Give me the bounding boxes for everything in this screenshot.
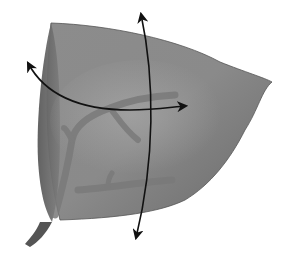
diagram-canvas (0, 0, 289, 267)
surface-highlight (50, 60, 230, 180)
stem (25, 222, 52, 247)
lobe-diagram (0, 0, 289, 267)
